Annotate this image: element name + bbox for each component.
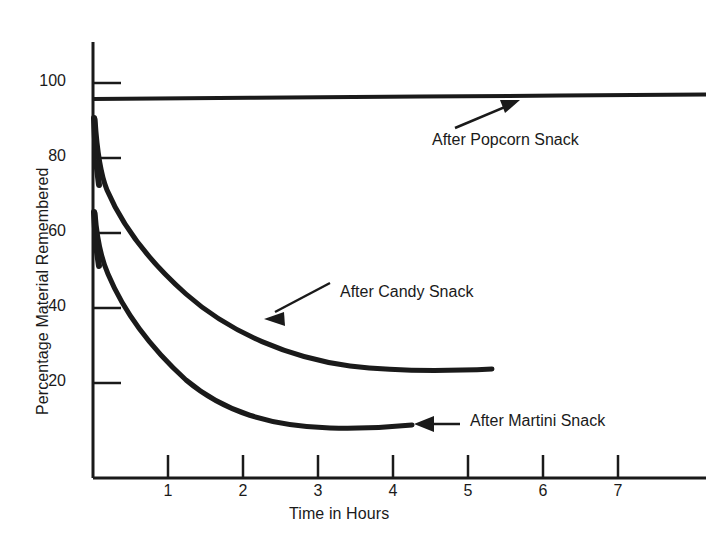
chart-container: 100 80 60 40 20 1 2 3 4 5 6 7 Percentage… (0, 0, 710, 535)
candy-annotation-arrow (264, 283, 330, 326)
annotation-candy: After Candy Snack (340, 283, 473, 301)
series-line-popcorn (93, 95, 706, 99)
series-line-candy-origin (94, 118, 99, 185)
x-tick-label-2: 2 (231, 482, 255, 500)
x-tick-label-4: 4 (381, 482, 405, 500)
x-tick-label-6: 6 (531, 482, 555, 500)
series-line-martini-origin (94, 212, 99, 266)
x-axis-ticks (168, 455, 618, 478)
y-tick-label-100: 100 (22, 72, 66, 90)
popcorn-annotation-arrow (455, 100, 520, 128)
y-axis-title: Percentage Material Remembered (34, 167, 52, 415)
annotation-martini: After Martini Snack (470, 412, 605, 430)
chart-plot-area (0, 0, 710, 535)
x-tick-label-7: 7 (606, 482, 630, 500)
axis-lines (93, 42, 706, 478)
x-axis-title: Time in Hours (289, 505, 389, 523)
martini-annotation-arrow (414, 416, 460, 432)
x-tick-label-3: 3 (306, 482, 330, 500)
series-line-candy (95, 119, 492, 371)
y-tick-label-80: 80 (22, 147, 66, 165)
x-tick-label-1: 1 (156, 482, 180, 500)
x-tick-label-5: 5 (456, 482, 480, 500)
annotation-popcorn: After Popcorn Snack (432, 131, 579, 149)
